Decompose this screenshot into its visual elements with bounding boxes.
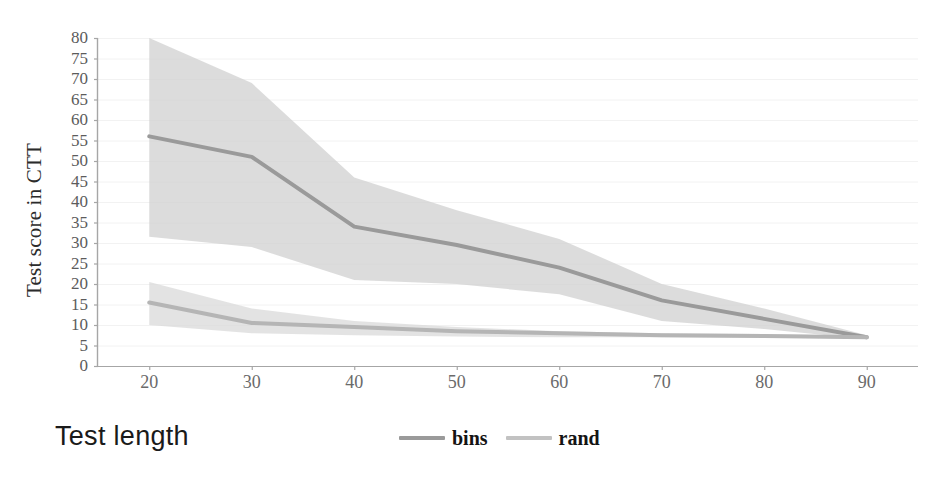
y-tick-label: 25 xyxy=(54,255,88,272)
y-tick-label: 0 xyxy=(54,357,88,374)
y-tick-label: 10 xyxy=(54,316,88,333)
y-tick-label: 60 xyxy=(54,111,88,128)
y-tick-label: 15 xyxy=(54,296,88,313)
x-tick-label: 70 xyxy=(639,373,685,391)
chart-legend: bins rand xyxy=(399,428,600,448)
legend-swatch-rand-icon xyxy=(506,436,552,440)
confidence-bands-group xyxy=(149,38,867,339)
y-tick-label: 45 xyxy=(54,173,88,190)
chart-figure: 80757065605550454035302520151050 2030405… xyxy=(0,0,927,495)
x-axis-title: Test length xyxy=(55,421,189,452)
y-tick-label: 35 xyxy=(54,214,88,231)
y-tick-label: 75 xyxy=(54,50,88,67)
x-tick-label: 80 xyxy=(741,373,787,391)
y-tick-label: 70 xyxy=(54,70,88,87)
x-tick-label: 90 xyxy=(844,373,890,391)
x-tick-label: 60 xyxy=(536,373,582,391)
y-tick-label: 30 xyxy=(54,234,88,251)
x-tick-label: 50 xyxy=(434,373,480,391)
legend-item-bins[interactable]: bins xyxy=(399,428,488,448)
y-axis-title-text: Test score in CTT xyxy=(22,143,47,297)
legend-label-bins: bins xyxy=(452,428,488,448)
legend-swatch-bins-icon xyxy=(399,436,445,440)
confidence-band-bins xyxy=(149,38,867,339)
y-axis-title: Test score in CTT xyxy=(14,90,54,350)
x-tick-label: 20 xyxy=(126,373,172,391)
y-tick-label: 5 xyxy=(54,337,88,354)
y-tick-label: 20 xyxy=(54,275,88,292)
x-tick-label: 40 xyxy=(331,373,377,391)
y-tick-label: 80 xyxy=(54,29,88,46)
legend-item-rand[interactable]: rand xyxy=(506,428,600,448)
legend-label-rand: rand xyxy=(559,428,600,448)
y-tick-label: 40 xyxy=(54,193,88,210)
y-tick-label: 55 xyxy=(54,132,88,149)
x-tick-label: 30 xyxy=(229,373,275,391)
y-tick-label: 50 xyxy=(54,152,88,169)
y-tick-label: 65 xyxy=(54,91,88,108)
